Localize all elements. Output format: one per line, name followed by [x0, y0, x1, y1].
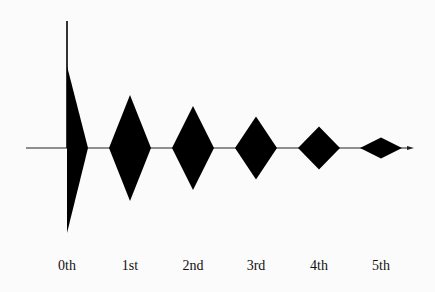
order-5-diamond [360, 138, 402, 159]
order-1-diamond [109, 95, 151, 201]
order-label-4: 4th [299, 258, 339, 274]
axis-arrowhead [407, 146, 414, 150]
order-2-diamond [172, 106, 214, 190]
diagram-canvas [0, 0, 435, 292]
order-label-2: 2nd [173, 258, 213, 274]
order-label-3: 3rd [236, 258, 276, 274]
order-3-diamond [235, 117, 277, 180]
order-label-5: 5th [361, 258, 401, 274]
order-label-1: 1st [110, 258, 150, 274]
order-label-0: 0th [47, 258, 87, 274]
order-4-diamond [298, 127, 340, 170]
order-0-shape [67, 66, 88, 233]
order-decay-diagram: 0th1st2nd3rd4th5th [0, 0, 435, 292]
